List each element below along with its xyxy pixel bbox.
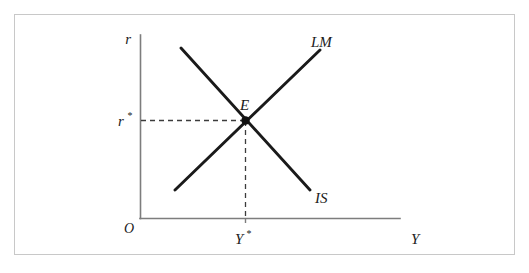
diagram-canvas: r Y O r * Y * E LM IS bbox=[0, 0, 529, 273]
lm-curve-label: LM bbox=[310, 34, 333, 50]
y-axis-label: r bbox=[125, 31, 131, 47]
origin-label: O bbox=[124, 221, 134, 236]
y-tick-label-star: * bbox=[127, 110, 132, 121]
y-tick-label-base: r bbox=[118, 113, 124, 129]
equilibrium-label: E bbox=[239, 97, 249, 113]
x-tick-label-star: * bbox=[246, 228, 251, 239]
is-lm-figure: r Y O r * Y * E LM IS bbox=[0, 0, 529, 273]
equilibrium-point-marker bbox=[241, 116, 249, 124]
is-curve-label: IS bbox=[314, 190, 328, 206]
